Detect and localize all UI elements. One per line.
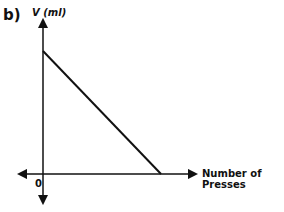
data-line (43, 51, 161, 174)
chart-plot (0, 0, 284, 212)
